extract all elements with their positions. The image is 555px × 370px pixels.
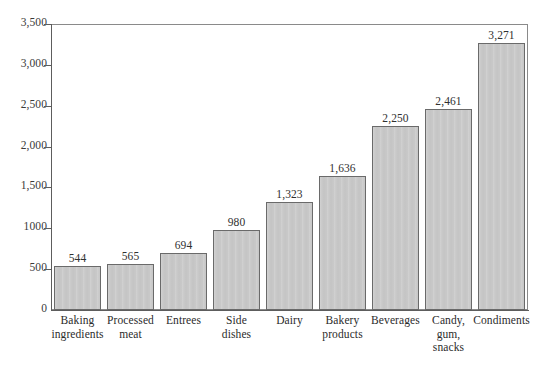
category-label-line: Processed <box>100 314 161 328</box>
y-axis-tick <box>44 24 52 25</box>
category-label: Dairy <box>259 314 320 328</box>
category-label-line: Dairy <box>259 314 320 328</box>
bar-rect <box>266 202 313 310</box>
bar[interactable]: 2,461 <box>425 109 472 310</box>
bar-rect <box>319 176 366 310</box>
y-axis-tick-label: 3,500 <box>5 16 47 28</box>
bar-rect <box>160 253 207 310</box>
y-axis-tick <box>44 65 52 66</box>
bar-rect <box>478 43 525 310</box>
y-axis-tick-label: 0 <box>5 302 47 314</box>
category-label: Processedmeat <box>100 314 161 341</box>
y-axis-tick <box>44 187 52 188</box>
category-label: Condiments <box>471 314 532 328</box>
y-axis-tick <box>44 147 52 148</box>
category-label-line: Side <box>206 314 267 328</box>
y-axis-tick <box>44 106 52 107</box>
bar[interactable]: 980 <box>213 230 260 310</box>
bar-value-label: 2,250 <box>358 112 433 124</box>
bar-rect <box>425 109 472 310</box>
y-axis-tick <box>44 228 52 229</box>
category-label-line: Bakery <box>312 314 373 328</box>
y-axis-tick-label: 1,500 <box>5 179 47 191</box>
bar-value-label: 565 <box>93 250 168 262</box>
x-axis-line <box>51 310 529 311</box>
bar[interactable]: 565 <box>107 264 154 310</box>
y-axis-tick-label: 1000 <box>5 220 47 232</box>
category-label-line: Baking <box>47 314 108 328</box>
bars-layer: 5445656949801,3231,6362,2502,4613,271 <box>51 24 528 310</box>
bar[interactable]: 1,636 <box>319 176 366 310</box>
bar[interactable]: 3,271 <box>478 43 525 310</box>
category-label: Entrees <box>153 314 214 328</box>
bar-value-label: 2,461 <box>411 95 486 107</box>
category-label-line: Candy, <box>418 314 479 328</box>
bar-value-label: 1,323 <box>252 188 327 200</box>
bar[interactable]: 2,250 <box>372 126 419 310</box>
category-label-line: ingredients <box>47 328 108 342</box>
y-axis-tick-label: 3,000 <box>5 57 47 69</box>
bar[interactable]: 694 <box>160 253 207 310</box>
bar-value-label: 980 <box>199 216 274 228</box>
bar-rect <box>107 264 154 310</box>
category-label-line: products <box>312 328 373 342</box>
bar[interactable]: 544 <box>54 266 101 310</box>
category-label: Beverages <box>365 314 426 328</box>
bar[interactable]: 1,323 <box>266 202 313 310</box>
bar-chart: 050010001,5002,0002,5003,0003,500 544565… <box>0 0 555 370</box>
x-axis-category-labels: BakingingredientsProcessedmeatEntreesSid… <box>51 314 528 370</box>
category-label-line: dishes <box>206 328 267 342</box>
bar-value-label: 3,271 <box>464 29 539 41</box>
category-label-line: gum, <box>418 328 479 342</box>
bar-rect <box>372 126 419 310</box>
y-axis-labels: 050010001,5002,0002,5003,0003,500 <box>0 0 47 370</box>
bar-value-label: 1,636 <box>305 162 380 174</box>
category-label-line: Beverages <box>365 314 426 328</box>
category-label-line: snacks <box>418 341 479 355</box>
category-label: Bakingingredients <box>47 314 108 341</box>
y-axis-tick <box>44 269 52 270</box>
category-label: Candy,gum,snacks <box>418 314 479 355</box>
category-label-line: Entrees <box>153 314 214 328</box>
category-label-line: meat <box>100 328 161 342</box>
category-label-line: Condiments <box>471 314 532 328</box>
y-axis-tick-label: 2,500 <box>5 98 47 110</box>
bar-value-label: 694 <box>146 239 221 251</box>
bar-rect <box>54 266 101 310</box>
bar-rect <box>213 230 260 310</box>
category-label: Sidedishes <box>206 314 267 341</box>
category-label: Bakeryproducts <box>312 314 373 341</box>
y-axis-tick-label: 2,000 <box>5 139 47 151</box>
